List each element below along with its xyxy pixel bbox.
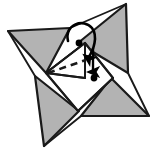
origami-figure-canvas (0, 0, 156, 152)
reference-dot-upper (76, 40, 83, 47)
origami-diagram (0, 0, 156, 152)
reference-dot-lower (91, 75, 98, 82)
